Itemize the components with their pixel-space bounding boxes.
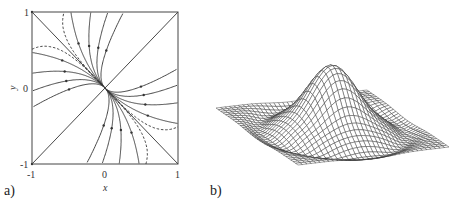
direction-marker-icon [147,114,149,116]
direction-marker-icon [111,127,113,129]
x-axis-label: x [102,182,108,193]
y-axis-label: y [7,85,18,91]
direction-marker-icon [143,94,145,96]
direction-marker-icon [63,70,65,72]
direction-marker-icon [88,45,90,47]
x-tick-mid: 0 [102,169,107,180]
direction-marker-icon [144,103,146,105]
x-tick-left: -1 [27,169,35,180]
direction-marker-icon [140,85,142,87]
direction-marker-icon [77,42,79,44]
panel-a-label: a) [4,183,15,199]
x-tick-right: 1 [175,169,180,180]
wireframe-surface [216,65,449,165]
trajectory-curve [105,69,177,92]
direction-marker-icon [103,124,105,126]
trajectory-curves [31,11,178,165]
trajectory-curve [34,84,106,107]
trajectory-curve [89,13,105,89]
direction-marker-icon [130,131,132,133]
direction-marker-icon [97,47,99,49]
trajectory-curve [105,88,178,105]
direction-marker-icon [120,129,122,131]
direction-marker-icon [61,59,63,61]
trajectory-curve [33,71,106,88]
y-tick-mid: 0 [23,83,28,94]
y-tick-top: 1 [24,7,29,18]
direction-marker-icon [68,88,70,90]
phase-portrait-panel: 1 0 -1 -1 0 1 x y a) [4,7,180,199]
direction-marker-icon [105,49,107,51]
trajectory-curve [105,88,121,164]
surface-plot-panel: b) [210,65,449,199]
figure: 1 0 -1 -1 0 1 x y a) b) [0,0,459,206]
panel-b-label: b) [210,183,222,199]
direction-marker-icon [65,80,67,82]
